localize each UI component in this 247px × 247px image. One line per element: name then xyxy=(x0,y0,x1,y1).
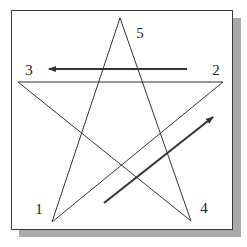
star-diagram: 1 2 3 4 5 xyxy=(0,0,247,247)
star-edge-3-4 xyxy=(18,82,191,221)
star-edge-5-1 xyxy=(52,18,120,222)
vertex-label-3: 3 xyxy=(25,63,33,78)
star-edges xyxy=(18,18,223,222)
arrow-toward-2-icon xyxy=(104,117,213,203)
direction-arrows xyxy=(49,69,213,203)
star-edge-1-2 xyxy=(52,82,223,222)
vertex-label-4: 4 xyxy=(200,201,208,216)
vertex-label-5: 5 xyxy=(136,26,144,41)
vertex-label-1: 1 xyxy=(35,202,43,217)
star-edge-4-5 xyxy=(120,18,191,221)
vertex-label-2: 2 xyxy=(212,63,220,78)
